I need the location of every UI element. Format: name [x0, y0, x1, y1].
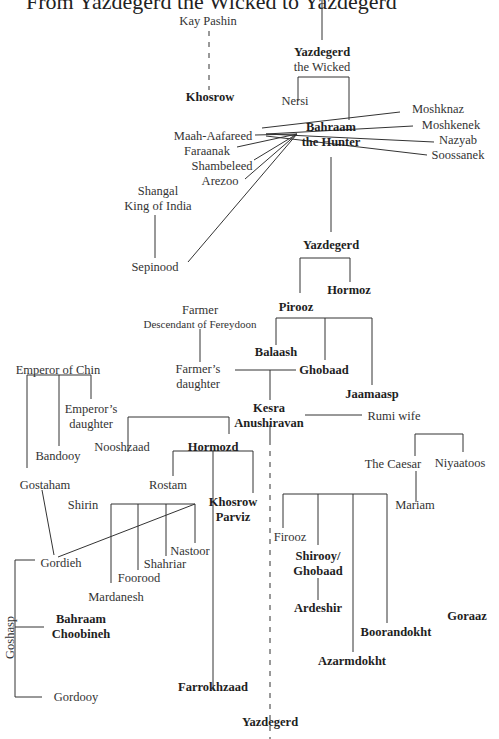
node-moshknaz: Moshknaz: [412, 102, 464, 116]
node-nastoor: Nastoor: [170, 544, 210, 558]
node-shangal-line2: King of India: [124, 199, 191, 213]
node-ardeshir: Ardeshir: [294, 601, 342, 615]
node-ghobaad: Ghobaad: [299, 363, 348, 377]
node-emperors-daughter-line1: Emperor’s: [65, 402, 118, 416]
node-khosrow-parviz-line1: Khosrow: [209, 495, 257, 509]
node-niyaatoos: Niyaatoos: [435, 456, 486, 470]
node-azarmdokht: Azarmdokht: [318, 654, 386, 668]
node-kay-pashin: Kay Pashin: [179, 14, 236, 28]
node-rumi-wife: Rumi wife: [367, 409, 420, 423]
node-moshkenek: Moshkenek: [422, 118, 480, 132]
node-nersi: Nersi: [281, 94, 308, 108]
node-bahraam-choobineh-line2: Choobineh: [52, 627, 110, 641]
node-emperor-of-chin: Emperor of Chin: [16, 363, 101, 377]
node-shahriar: Shahriar: [144, 557, 186, 571]
node-bahraam-hunter-line1: Bahraam: [306, 120, 356, 134]
node-bandooy: Bandooy: [35, 449, 80, 463]
node-yazdegerd-wicked-line2: the Wicked: [294, 60, 351, 74]
node-goshasp: Goshasp: [3, 616, 18, 659]
node-farmers-daughter-line1: Farmer’s: [176, 362, 221, 376]
node-arezoo: Arezoo: [202, 174, 239, 188]
node-gostaham: Gostaham: [20, 478, 71, 492]
node-shirin: Shirin: [68, 498, 99, 512]
node-firooz: Firooz: [274, 530, 307, 544]
node-maah-aafareed: Maah-Aafareed: [174, 129, 252, 143]
node-goraaz: Goraaz: [447, 609, 487, 623]
node-mardanesh: Mardanesh: [88, 590, 144, 604]
node-farrokhzaad: Farrokhzaad: [178, 680, 248, 694]
node-bahraam-hunter-line2: the Hunter: [302, 135, 361, 149]
node-farmers-daughter-line2: daughter: [176, 377, 220, 391]
node-faraanak: Faraanak: [184, 144, 230, 158]
node-khosrow: Khosrow: [186, 90, 234, 104]
node-boorandokht: Boorandokht: [361, 625, 432, 639]
node-shirooy-line2: Ghobaad: [293, 564, 342, 578]
node-nooshzaad: Nooshzaad: [94, 440, 150, 454]
node-emperors-daughter-line2: daughter: [69, 417, 113, 431]
node-khosrow-parviz-line2: Parviz: [216, 510, 251, 524]
node-foorood: Foorood: [118, 571, 160, 585]
node-rostam: Rostam: [149, 478, 187, 492]
node-the-caesar: The Caesar: [365, 457, 422, 471]
node-soossanek: Soossanek: [432, 148, 485, 162]
node-gordooy: Gordooy: [54, 690, 98, 704]
node-nazyab: Nazyab: [439, 133, 477, 147]
node-hormozd: Hormozd: [188, 440, 239, 454]
node-sepinood: Sepinood: [131, 260, 178, 274]
node-yazdegerd-ii: Yazdegerd: [303, 238, 359, 252]
node-hormoz: Hormoz: [327, 283, 371, 297]
node-farmer-line2: Descendant of Fereydoon: [143, 317, 256, 331]
node-pirooz: Pirooz: [279, 300, 313, 314]
node-gordieh: Gordieh: [41, 556, 82, 570]
node-balaash: Balaash: [255, 345, 297, 359]
node-shambeleed: Shambeleed: [191, 159, 252, 173]
node-yazdegerd-wicked-line1: Yazdegerd: [294, 45, 350, 59]
node-kesra-line2: Anushiravan: [234, 416, 303, 430]
node-yazdegerd-last: Yazdegerd: [242, 715, 298, 729]
node-jaamaasp: Jaamaasp: [345, 387, 398, 401]
node-mariam: Mariam: [395, 498, 435, 512]
node-farmer-line1: Farmer: [182, 303, 218, 317]
node-shangal-line1: Shangal: [138, 184, 178, 198]
node-bahraam-choobineh-line1: Bahraam: [56, 612, 106, 626]
node-shirooy-line1: Shirooy/: [296, 549, 341, 563]
node-kesra-line1: Kesra: [253, 401, 285, 415]
